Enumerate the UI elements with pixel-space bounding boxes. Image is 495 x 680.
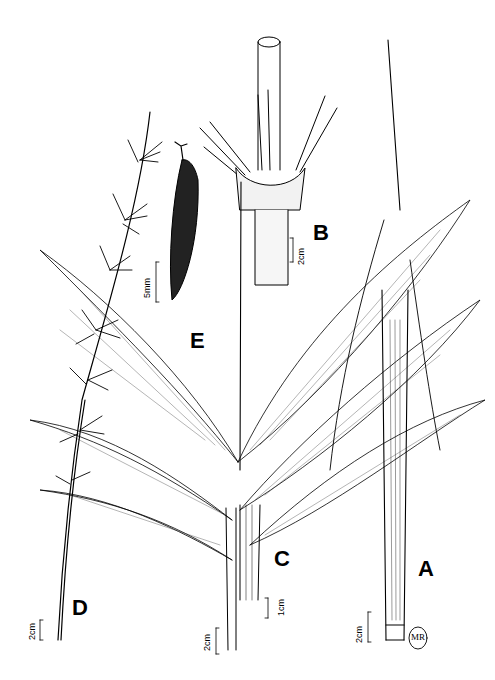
panel-label-c: C bbox=[274, 548, 290, 570]
scale-label-c-right: 1cm bbox=[277, 599, 286, 616]
scale-label-b: 2cm bbox=[297, 248, 306, 265]
artist-signature: MR bbox=[411, 632, 425, 642]
panel-label-d: D bbox=[72, 597, 88, 619]
panel-e-drawing bbox=[156, 142, 198, 302]
scale-label-d: 2cm bbox=[28, 623, 37, 640]
scale-label-c-left: 2cm bbox=[203, 634, 212, 651]
scale-label-e: 5mm bbox=[143, 278, 152, 298]
panel-c-drawing bbox=[216, 505, 268, 654]
panel-label-a: A bbox=[418, 558, 434, 580]
panel-label-b: B bbox=[313, 222, 329, 244]
panel-label-e: E bbox=[190, 330, 205, 352]
scale-label-a: 2cm bbox=[355, 626, 364, 643]
panel-d-drawing bbox=[40, 112, 162, 640]
